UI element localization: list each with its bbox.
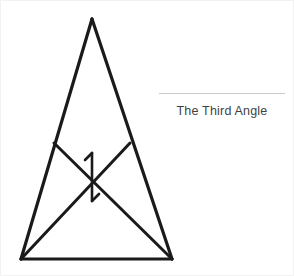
triangle-right-side	[92, 19, 172, 259]
triangle-diagram	[1, 1, 294, 276]
figure-canvas: The Third Angle	[0, 0, 294, 276]
cevian-lines	[21, 143, 172, 259]
caption-label: The Third Angle	[159, 103, 285, 119]
caption-divider	[159, 93, 285, 94]
triangle-outline	[21, 19, 172, 259]
caption-block: The Third Angle	[159, 93, 285, 119]
